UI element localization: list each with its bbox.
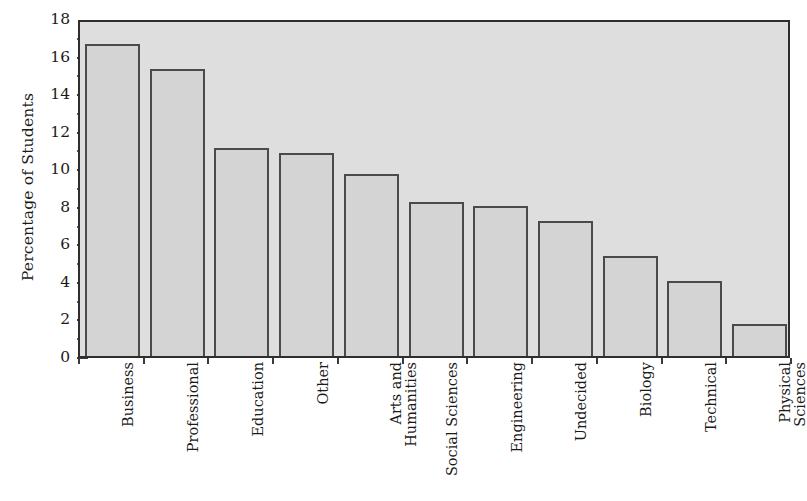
x-tick-mark [337,358,339,364]
x-category-label: Arts andHumanities [389,362,429,500]
x-tick-mark [790,358,792,364]
x-tick-mark [531,358,533,364]
bar [150,69,205,356]
x-category-label-line2: Humanities [404,362,419,500]
x-category-label-line1: Technical [703,362,719,432]
x-category-label-line1: Professional [185,362,201,452]
x-category-label-line1: Education [250,362,266,437]
x-tick-mark [725,358,727,364]
bar [538,221,593,356]
x-category-label: Education [251,362,273,500]
x-category-label: Professional [186,362,208,500]
bar [85,44,140,356]
bar [732,324,787,356]
x-category-label: Other [316,362,338,500]
x-category-label-line1: Business [120,362,136,427]
bar [473,206,528,356]
x-category-label: PhysicalSciences [778,362,807,500]
x-category-label: Social Sciences [445,362,467,500]
bar [214,148,269,356]
x-category-label-line1: Physical [777,362,793,423]
bar [409,202,464,356]
x-tick-mark [272,358,274,364]
x-tick-mark [661,358,663,364]
bar [667,281,722,356]
bar-chart: Percentage of Students 181614121086420 B… [0,0,807,501]
x-category-label-line1: Other [315,362,331,405]
bars-layer [80,22,788,356]
x-tick-mark [466,358,468,364]
x-category-label-line2: Sciences [793,362,807,500]
x-category-label: Business [121,362,143,500]
x-category-label-line1: Undecided [573,362,589,441]
x-category-label: Engineering [510,362,532,500]
x-category-label-line1: Arts and [388,362,404,425]
x-category-label: Technical [704,362,726,500]
x-tick-mark [78,358,80,364]
x-category-label: Undecided [574,362,596,500]
bar [603,256,658,356]
bar [344,174,399,356]
x-category-label-line1: Engineering [509,362,525,453]
x-category-label-line1: Biology [638,362,654,417]
x-tick-mark [143,358,145,364]
x-tick-mark [402,358,404,364]
x-category-label-line1: Social Sciences [444,362,460,476]
x-tick-mark [207,358,209,364]
x-category-label: Biology [639,362,661,500]
plot-area [78,20,790,358]
x-tick-mark [596,358,598,364]
bar [279,153,334,356]
x-axis-category-labels: BusinessProfessionalEducationOtherArts a… [0,362,807,501]
